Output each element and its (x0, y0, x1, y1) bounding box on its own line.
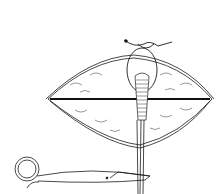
scissors-icon (15, 157, 150, 188)
tissue-texture (70, 73, 192, 132)
surgical-drawing (0, 0, 224, 194)
wound-outline (46, 55, 214, 148)
illustration (0, 0, 224, 194)
forceps (137, 120, 144, 194)
